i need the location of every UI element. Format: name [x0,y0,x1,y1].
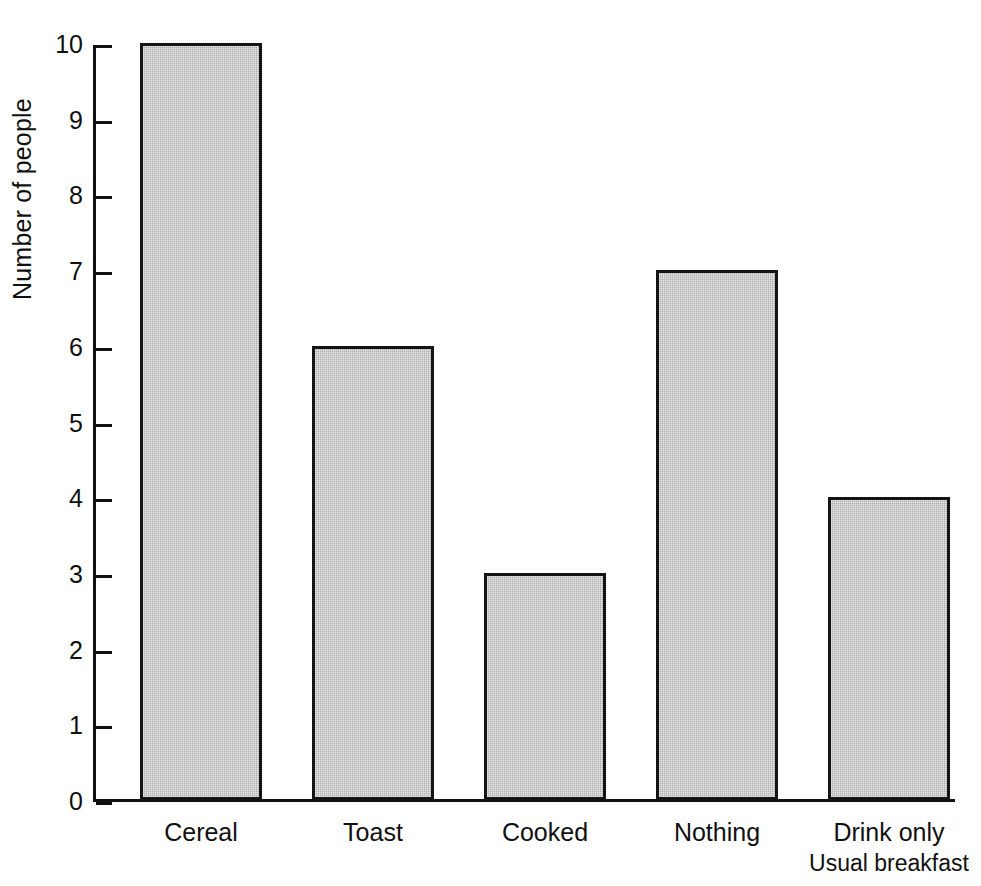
y-tick-mark [96,424,112,427]
bar-toast [312,346,434,800]
y-tick-label: 8 [69,183,83,208]
y-tick-mark [96,348,112,351]
y-tick-mark [96,575,112,578]
y-tick-label: 6 [69,335,83,360]
bar-drink-only [828,497,950,800]
bar-chart: Number of people 012345678910 CerealToas… [0,0,981,886]
x-axis-title: Usual breakfast [809,850,969,877]
x-label-toast: Toast [343,818,403,847]
bar-cereal [140,43,262,800]
bar-cooked [484,573,606,800]
y-tick-label: 3 [69,562,83,587]
y-tick-mark [96,499,112,502]
y-tick-label: 7 [69,259,83,284]
y-axis-title: Number of people [8,0,48,300]
x-label-cooked: Cooked [502,818,588,847]
y-tick-mark [96,802,112,805]
y-tick-label: 9 [69,108,83,133]
x-label-drink-only: Drink only [833,818,944,847]
y-tick-label: 4 [69,486,83,511]
y-tick-label: 1 [69,713,83,738]
bar-nothing [656,270,778,800]
y-tick-mark [96,651,112,654]
y-tick-mark [96,196,112,199]
y-tick-label: 0 [69,789,83,814]
y-tick-mark [96,45,112,48]
y-tick-mark [96,726,112,729]
plot-area: 012345678910 [93,45,955,802]
y-tick-label: 2 [69,638,83,663]
y-tick-label: 5 [69,411,83,436]
y-tick-mark [96,272,112,275]
y-tick-mark [96,121,112,124]
x-label-nothing: Nothing [674,818,760,847]
x-label-cereal: Cereal [164,818,238,847]
y-tick-label: 10 [55,32,83,57]
